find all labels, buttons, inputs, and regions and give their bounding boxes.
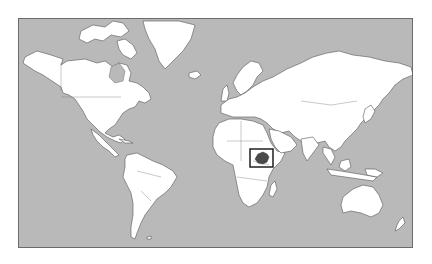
iceland <box>189 71 201 79</box>
greenland <box>143 21 195 69</box>
world-map-svg <box>19 19 413 248</box>
australia <box>341 185 383 217</box>
madagascar <box>269 181 277 197</box>
new-zealand <box>395 217 405 231</box>
falklands <box>147 236 151 239</box>
great-britain <box>221 85 229 101</box>
south-america-landmass <box>123 153 177 239</box>
world-map <box>18 18 413 248</box>
borneo <box>339 159 351 171</box>
baffin-island <box>117 39 137 59</box>
